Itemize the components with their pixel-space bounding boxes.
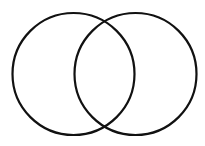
venn-diagram [0,0,205,146]
